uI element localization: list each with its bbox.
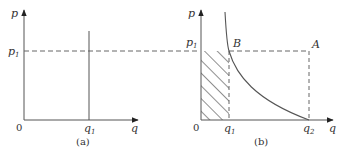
point-A-label: A xyxy=(311,38,320,51)
p1-label-a: p1 xyxy=(8,45,20,59)
caption-b: (b) xyxy=(254,136,268,147)
q1-label-b: q1 xyxy=(224,122,236,136)
point-B-label: B xyxy=(232,37,241,50)
y-axis-label-b: p xyxy=(188,7,195,20)
q2-label-b: q2 xyxy=(303,122,315,136)
x-axis-label-a: q xyxy=(131,122,138,135)
panel-b: p p1 B A 0 q1 q2 q (b) xyxy=(186,7,336,147)
panel-a: p p1 0 q1 q (a) xyxy=(8,7,200,147)
demand-curve xyxy=(225,12,309,120)
origin-label-a: 0 xyxy=(16,122,22,133)
y-axis-label-a: p xyxy=(11,7,18,20)
hatched-area xyxy=(201,51,229,120)
caption-a: (a) xyxy=(76,136,90,147)
q1-label-a: q1 xyxy=(84,122,96,136)
origin-label-b: 0 xyxy=(193,122,199,133)
x-axis-label-b: q xyxy=(329,122,336,135)
diagram: p p1 0 q1 q (a) p p1 B A 0 q1 q2 q (b) xyxy=(0,0,344,152)
p1-label-b: p1 xyxy=(186,36,198,50)
